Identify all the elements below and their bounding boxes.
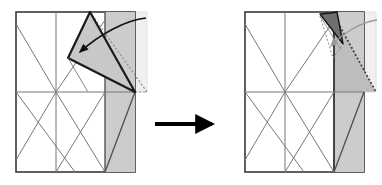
panel-after: [245, 12, 377, 172]
paper-folding-diagram: Paper folding step diagram Two-panel ori…: [0, 0, 382, 185]
figure-root: Paper folding step diagram Two-panel ori…: [0, 0, 382, 185]
panel-before: [16, 12, 147, 172]
